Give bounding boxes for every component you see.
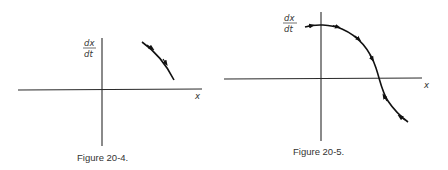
figure-20-4: dx dt x Figure 20-4. <box>18 38 202 163</box>
phase-curve <box>142 42 174 80</box>
x-axis-label: x <box>423 80 430 90</box>
y-axis-label-numerator: dx <box>284 13 295 23</box>
y-axis-label-denominator: dt <box>84 49 93 59</box>
x-axis <box>224 78 422 79</box>
figures-canvas: dx dt x Figure 20-4. dx dt x Figure 20-5… <box>0 0 448 170</box>
x-axis-label: x <box>194 91 201 101</box>
y-axis-label-denominator: dt <box>284 24 293 34</box>
y-axis-label-numerator: dx <box>84 38 95 48</box>
figure-caption: Figure 20-4. <box>77 152 128 163</box>
figure-20-5: dx dt x Figure 20-5. <box>224 12 430 157</box>
x-axis <box>18 89 202 90</box>
figure-caption: Figure 20-5. <box>293 146 344 157</box>
